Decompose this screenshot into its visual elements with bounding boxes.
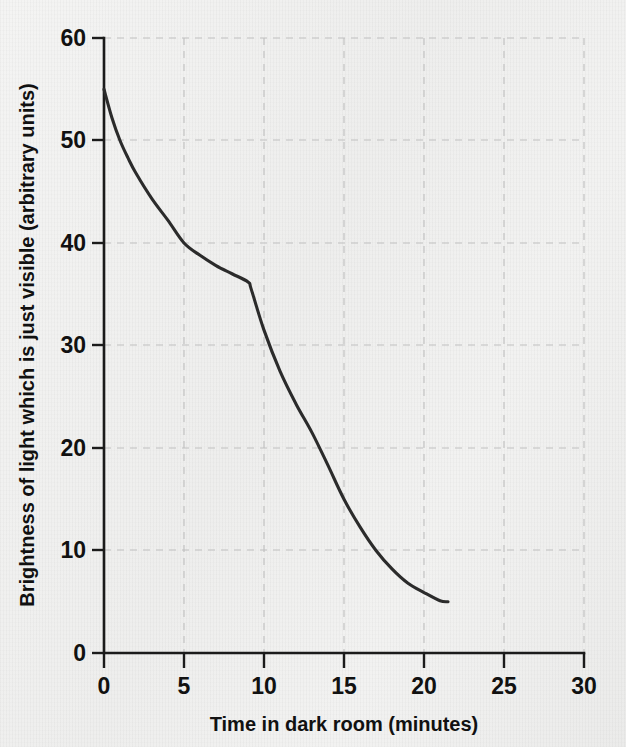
x-tick-label: 5 [178,673,191,699]
x-tick-label: 10 [251,673,277,699]
y-tick-label: 30 [60,332,86,358]
y-tick-label: 50 [60,127,86,153]
y-axis-ticks [92,38,104,653]
x-tick-label: 25 [491,673,517,699]
y-tick-label: 20 [60,435,86,461]
y-axis-title: Brightness of light which is just visibl… [16,83,38,606]
x-axis-tick-labels: 0 5 10 15 20 25 30 [98,673,597,699]
y-tick-label: 40 [60,230,86,256]
y-tick-label: 60 [60,25,86,51]
y-tick-label: 10 [60,537,86,563]
x-tick-label: 0 [98,673,111,699]
x-axis-title: Time in dark room (minutes) [210,713,479,735]
x-tick-label: 30 [571,673,597,699]
x-axis-ticks [104,653,584,668]
y-axis-tick-labels: 60 50 40 30 20 10 0 [60,25,86,666]
dark-adaptation-chart: 60 50 40 30 20 10 0 0 5 10 15 20 25 30 T… [0,0,626,747]
y-tick-label: 0 [73,640,86,666]
x-tick-label: 15 [331,673,357,699]
x-tick-label: 20 [411,673,437,699]
chart-svg: 60 50 40 30 20 10 0 0 5 10 15 20 25 30 T… [0,0,626,747]
